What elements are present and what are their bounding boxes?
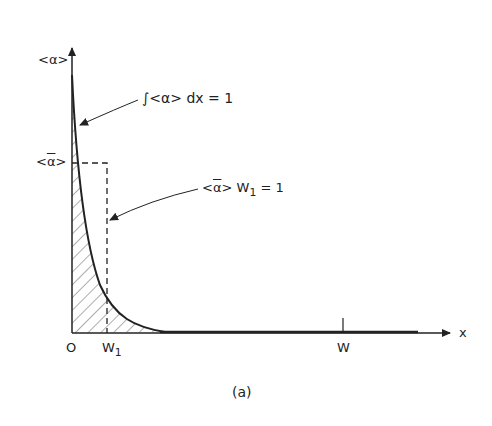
w1-label: W1 [102, 340, 122, 359]
y-axis-label: <α> [38, 52, 68, 67]
gt: > [55, 154, 66, 169]
product-annotation: <α> W1 = 1 [202, 180, 284, 199]
subscript: 1 [115, 346, 122, 359]
w-text: > W [221, 180, 249, 195]
x-axis-label: x [459, 325, 467, 340]
integral-leader [80, 100, 138, 125]
origin-label: O [66, 340, 76, 355]
w-label: W [337, 340, 350, 355]
w: W [102, 340, 115, 355]
mean-level-label: <α> [36, 154, 66, 169]
hatched-area [72, 75, 165, 333]
caption: (a) [232, 384, 252, 400]
diagram-canvas [0, 0, 492, 426]
lt: < [202, 180, 213, 195]
product-leader [110, 189, 198, 220]
eq: = 1 [256, 180, 283, 195]
lt: < [36, 154, 47, 169]
integral-annotation: ∫<α> dx = 1 [142, 90, 233, 106]
